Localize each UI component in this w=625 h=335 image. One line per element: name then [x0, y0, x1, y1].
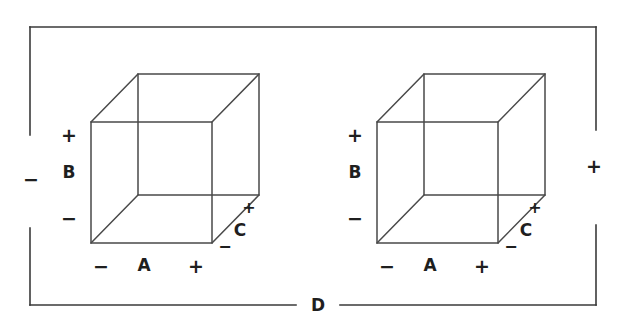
diagram-canvas: [0, 0, 625, 335]
left-cube-axis-c-label: C: [234, 222, 246, 239]
right-cube-axis-b-label: B: [349, 164, 362, 181]
right-cube-axis-a-label: A: [423, 257, 436, 274]
left-cube-axis-a-minus-sign: −: [93, 257, 109, 276]
left-cube-axis-a-plus-sign: +: [188, 257, 204, 276]
cube-diagram-figure: − + D + B − − A + + C − + B − − A + + C …: [0, 0, 625, 335]
left-cube-axis-b-minus-sign: −: [61, 209, 77, 228]
left-cube-axis-b-plus-sign: +: [61, 126, 77, 145]
right-cube-depth-edge-bottom-left: [377, 195, 424, 243]
right-cube-depth-edge-top-right: [498, 74, 545, 122]
left-cube-axis-b-label: B: [63, 164, 76, 181]
right-cube-axis-a-minus-sign: −: [379, 257, 395, 276]
right-cube-axis-c-minus-sign: −: [504, 239, 517, 255]
left-cube-axis-c-plus-sign: +: [242, 200, 255, 216]
axis-d-label: D: [311, 297, 325, 314]
right-cube-axis-b-plus-sign: +: [347, 126, 363, 145]
left-cube-axis-a-label: A: [137, 257, 150, 274]
left-cube-depth-edge-bottom-left: [91, 195, 138, 243]
axis-d-plus-sign: +: [586, 157, 602, 176]
right-cube-axis-c-label: C: [520, 222, 532, 239]
right-cube-wireframe: [377, 74, 545, 243]
left-cube-wireframe: [91, 74, 259, 243]
right-cube-depth-edge-top-left: [377, 74, 424, 122]
left-cube-depth-edge-top-right: [212, 74, 259, 122]
left-cube-axis-c-minus-sign: −: [218, 239, 231, 255]
left-cube-depth-edge-top-left: [91, 74, 138, 122]
axis-d-minus-sign: −: [23, 170, 39, 189]
outer-frame-axis-d: [30, 27, 596, 305]
right-cube-axis-a-plus-sign: +: [474, 257, 490, 276]
right-cube-axis-b-minus-sign: −: [347, 209, 363, 228]
right-cube-axis-c-plus-sign: +: [528, 200, 541, 216]
